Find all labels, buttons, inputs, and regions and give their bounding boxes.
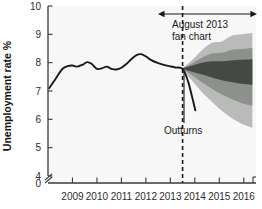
y-tick-label: 8 <box>35 57 41 68</box>
fan-chart-label-line1: August 2013 <box>172 19 229 30</box>
y-axis-title: Unemployment rate % <box>1 40 13 151</box>
y-tick-label: 7 <box>35 86 41 97</box>
y-tick-label: 9 <box>35 29 41 40</box>
y-tick-label: 10 <box>30 1 42 12</box>
chart-root: 109876540 200920102011201220132014201520… <box>0 0 262 209</box>
x-tick-label: 2009 <box>61 191 84 202</box>
x-tick-label: 2015 <box>208 191 231 202</box>
x-tick-label: 2016 <box>233 191 256 202</box>
x-tick-label: 2011 <box>111 191 133 202</box>
fan-chart-label-line2: fan chart <box>172 31 211 42</box>
y-tick-label: 0 <box>35 178 41 189</box>
y-tick-label: 6 <box>35 114 41 125</box>
x-tick-label: 2010 <box>86 191 109 202</box>
x-tick-label: 2013 <box>159 191 182 202</box>
x-tick-label: 2014 <box>184 191 207 202</box>
y-tick-label: 5 <box>35 142 41 153</box>
unemployment-fan-chart: 109876540 200920102011201220132014201520… <box>0 0 262 209</box>
x-tick-label: 2012 <box>135 191 158 202</box>
outturns-label: Outturns <box>164 125 202 136</box>
